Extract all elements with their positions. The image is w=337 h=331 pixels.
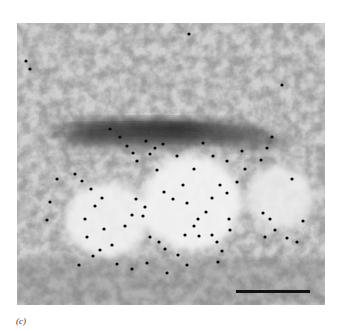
gold-particle [134, 197, 137, 200]
gold-particle [185, 201, 188, 204]
gold-particle [185, 263, 188, 266]
panel-label: (c) [16, 316, 26, 326]
gold-particle [143, 205, 146, 208]
gold-particle [259, 158, 262, 161]
gold-particle [163, 247, 166, 250]
gold-particle [228, 228, 231, 231]
gold-particle [123, 224, 126, 227]
gold-particle [130, 213, 133, 216]
gold-particle [108, 127, 111, 130]
lower-granules [17, 258, 325, 305]
gold-particle [227, 217, 230, 220]
gold-particle [115, 262, 118, 265]
gold-particle [273, 228, 276, 231]
gold-particle [218, 183, 221, 186]
gold-particle [45, 218, 48, 221]
gold-particle [165, 271, 168, 274]
gold-particle [175, 154, 178, 157]
gold-particle [100, 196, 103, 199]
gold-particle [268, 217, 271, 220]
gold-particle [48, 200, 51, 203]
gold-particle [118, 135, 121, 138]
gold-particle [261, 211, 264, 214]
gold-particle [181, 183, 184, 186]
gold-particle [270, 135, 273, 138]
gold-particle [265, 146, 268, 149]
gold-particle [285, 236, 288, 239]
gold-particle [161, 142, 164, 145]
gold-particle [210, 196, 213, 199]
gold-particle [216, 260, 219, 263]
gold-particle [77, 263, 80, 266]
gold-particle [89, 187, 92, 190]
gold-particle [301, 219, 304, 222]
gold-particle [196, 217, 199, 220]
gold-particle [192, 167, 195, 170]
gold-particle [201, 141, 204, 144]
vesicle-left [65, 182, 149, 258]
gold-particle [141, 214, 144, 217]
gold-particle [130, 267, 133, 270]
gold-particle [263, 235, 266, 238]
gold-particle [176, 253, 179, 256]
gold-particle [171, 197, 174, 200]
gold-particle [197, 234, 200, 237]
gold-particle [155, 168, 158, 171]
gold-particle [144, 139, 147, 142]
gold-particle [243, 167, 246, 170]
gold-particle [153, 146, 156, 149]
gold-particle [24, 59, 27, 62]
gold-particle [295, 240, 298, 243]
gold-particle [225, 159, 228, 162]
gold-particle [131, 151, 134, 154]
gold-particle [211, 154, 214, 157]
gold-particle [290, 177, 293, 180]
gold-particle [145, 261, 148, 264]
gold-particle [135, 159, 138, 162]
gold-particle [148, 152, 151, 155]
gold-particle [215, 240, 218, 243]
gold-particle [225, 191, 228, 194]
gold-particle [73, 172, 76, 175]
gold-particle [83, 217, 86, 220]
scale-bar [236, 290, 310, 293]
gold-particle [192, 224, 195, 227]
gold-particle [80, 179, 83, 182]
gold-particle [240, 149, 243, 152]
gold-particle [162, 190, 165, 193]
electron-micrograph [17, 23, 325, 305]
gold-particle [235, 180, 238, 183]
gold-particle [98, 248, 101, 251]
gold-particle [125, 144, 128, 147]
gold-particle [187, 32, 190, 35]
gold-particle [183, 233, 186, 236]
gold-particle [220, 249, 223, 252]
gold-particle [28, 67, 31, 70]
gold-particle [280, 83, 283, 86]
gold-particle [91, 254, 94, 257]
gold-particle [55, 177, 58, 180]
gold-particle [210, 233, 213, 236]
gold-particle [85, 235, 88, 238]
gold-particle [204, 210, 207, 213]
gold-particle [110, 243, 113, 246]
gold-particle [93, 204, 96, 207]
gold-particle [148, 235, 151, 238]
figure-panel: (c) [0, 0, 337, 331]
micrograph-canvas [17, 23, 325, 305]
gold-particle [157, 240, 160, 243]
gold-particle [102, 227, 105, 230]
